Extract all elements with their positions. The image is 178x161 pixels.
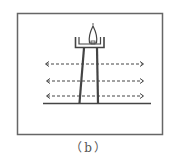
flame-icon — [89, 23, 97, 44]
diagram-figure — [0, 0, 178, 161]
support-legs — [80, 48, 99, 103]
arrow-row-3 — [47, 94, 144, 99]
figure-caption: （b） — [0, 138, 178, 155]
arrow-row-1 — [46, 62, 144, 67]
arrow-row-2 — [47, 79, 144, 84]
